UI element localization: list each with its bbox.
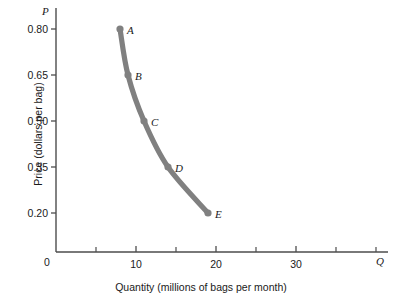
demand-curve: [120, 29, 208, 213]
data-point-e: [204, 209, 211, 216]
plot-area: [0, 0, 397, 305]
data-point-a: [116, 25, 123, 32]
demand-curve-figure: Price (dollars per bag) Quantity (millio…: [0, 0, 397, 305]
data-point-b: [124, 71, 131, 78]
data-point-d: [164, 163, 171, 170]
data-point-c: [140, 117, 147, 124]
